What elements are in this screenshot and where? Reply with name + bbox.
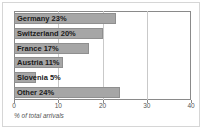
x-tick-label: 30 [143,102,150,109]
bar-row: Austria 11% [14,57,191,68]
chart-frame: Germany 23%Switzerland 20%France 17%Aust… [2,2,200,127]
x-tick-label: 20 [99,102,106,109]
x-tick-label: 0 [12,102,16,109]
x-axis-label: % of total arrivals [14,112,64,119]
bar-label: Germany 23% [17,13,67,24]
bar-label: Switzerland 20% [17,28,76,39]
bar-row: Slovenia 5% [14,72,191,83]
x-tick-label: 10 [55,102,62,109]
plot-area: Germany 23%Switzerland 20%France 17%Aust… [14,11,191,100]
bar-label: Austria 11% [17,57,60,68]
x-tick-label: 40 [187,102,194,109]
bar-row: France 17% [14,43,191,54]
bar-row: Other 24% [14,87,191,98]
bar-row: Germany 23% [14,13,191,24]
bar-label: France 17% [17,43,59,54]
bar-label: Slovenia 5% [17,72,61,83]
bar-label: Other 24% [17,87,54,98]
bar-row: Switzerland 20% [14,28,191,39]
